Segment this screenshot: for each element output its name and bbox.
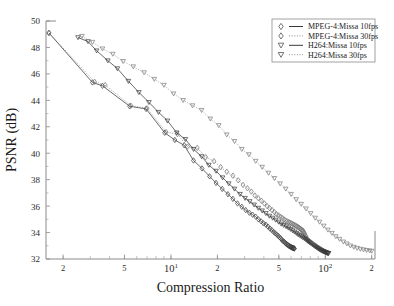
series-marker [90, 40, 95, 44]
x-tick-label: 2 [61, 263, 65, 273]
y-tick-label: 50 [31, 16, 41, 26]
y-tick-label: 48 [31, 43, 41, 53]
legend-label: H264:Missa 10fps [308, 41, 367, 50]
series-marker [283, 187, 288, 191]
figure-container: 3234363840424446485025101251022Compressi… [0, 0, 394, 306]
series-marker [266, 171, 271, 175]
y-tick-label: 32 [31, 254, 40, 264]
y-axis-ticks: 32343638404244464850 [31, 16, 50, 264]
y-tick-label: 44 [31, 96, 41, 106]
series-marker [241, 182, 245, 187]
series-marker [278, 182, 283, 186]
series-marker [253, 159, 258, 163]
x-tick-label: 5 [277, 263, 281, 273]
data-series [47, 30, 296, 251]
series-marker [272, 177, 277, 181]
y-tick-label: 40 [31, 149, 41, 159]
series-marker [162, 83, 167, 87]
y-tick-label: 42 [31, 122, 40, 132]
data-series-group [47, 30, 374, 255]
legend-label: MPEG-4:Missa 10fps [308, 22, 378, 31]
legend-label: H264:Missa 30fps [308, 51, 367, 60]
series-marker [142, 71, 147, 75]
y-tick-label: 38 [31, 175, 41, 185]
series-marker [268, 205, 272, 210]
x-tick-label: 5 [122, 263, 126, 273]
series-marker [245, 186, 249, 191]
series-marker [231, 173, 235, 178]
series-marker [240, 147, 245, 151]
y-tick-label: 34 [31, 228, 41, 238]
x-tick-label: 101 [164, 262, 179, 274]
y-axis-title: PSNR (dB) [4, 108, 20, 173]
series-marker [204, 154, 208, 159]
legend-label: MPEG-4:Missa 30fps [308, 32, 378, 41]
series-marker [111, 52, 116, 56]
x-axis-ticks: 25101251022 [61, 255, 374, 275]
series-marker [171, 92, 176, 96]
psnr-vs-compression-ratio-chart: 3234363840424446485025101251022Compressi… [0, 0, 394, 306]
series-marker [219, 164, 223, 169]
x-tick-label: 2 [215, 263, 219, 273]
data-series [80, 34, 374, 253]
series-marker [317, 220, 322, 224]
series-marker [224, 133, 229, 137]
x-tick-label: 2 [370, 263, 374, 273]
series-marker [121, 60, 126, 64]
series-marker [225, 169, 229, 174]
y-tick-label: 46 [31, 69, 41, 79]
x-tick-label: 102 [318, 262, 333, 274]
series-marker [270, 207, 274, 212]
series-marker [256, 195, 260, 200]
series-line [82, 36, 372, 251]
y-tick-label: 36 [31, 202, 41, 212]
x-axis-title: Compression Ratio [157, 280, 265, 295]
series-marker [232, 140, 237, 144]
legend: MPEG-4:Missa 10fpsMPEG-4:Missa 30fpsH264… [272, 19, 378, 62]
series-marker [249, 189, 253, 194]
